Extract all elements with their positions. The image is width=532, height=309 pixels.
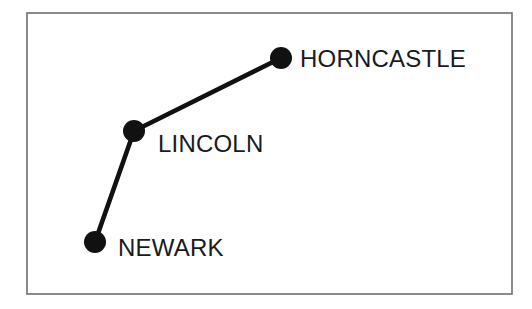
label-horncastle: HORNCASTLE — [300, 45, 466, 72]
node-lincoln[interactable] — [123, 120, 145, 142]
route-map-svg: HORNCASTLE LINCOLN NEWARK — [0, 0, 532, 309]
node-newark[interactable] — [84, 231, 106, 253]
label-newark: NEWARK — [118, 234, 224, 261]
node-horncastle[interactable] — [270, 47, 292, 69]
label-lincoln: LINCOLN — [158, 130, 263, 157]
figure-root: HORNCASTLE LINCOLN NEWARK — [0, 0, 532, 309]
